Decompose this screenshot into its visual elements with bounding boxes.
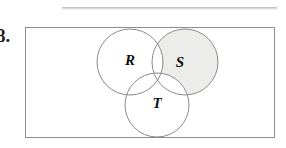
shaded-region-s-only (25, 27, 275, 138)
venn-diagram: R S T (25, 27, 275, 138)
top-divider-rule-shadow (62, 9, 277, 10)
exercise-number: 8. (0, 26, 10, 45)
set-label-r: R (124, 52, 135, 68)
set-label-s: S (176, 54, 184, 70)
page-canvas: 8. R S T (0, 0, 286, 148)
set-label-t: T (152, 95, 162, 111)
